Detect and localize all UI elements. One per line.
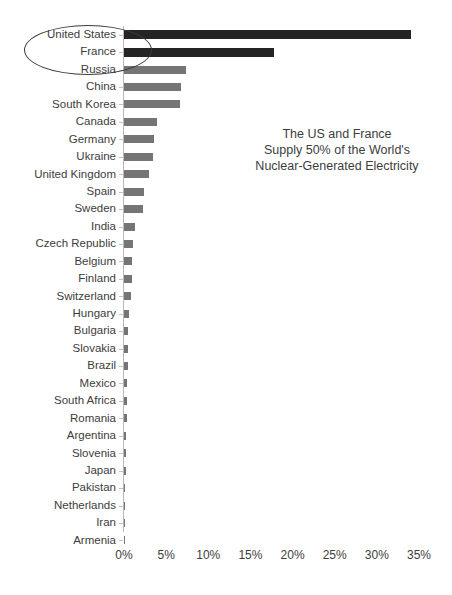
axis-tick-mark <box>119 209 123 210</box>
axis-tick-mark <box>119 244 123 245</box>
bar-row: Czech Republic <box>0 235 452 252</box>
bar-container <box>124 497 125 514</box>
bar-row: Argentina <box>0 427 452 444</box>
bar-container <box>124 200 143 217</box>
bar-row: South Africa <box>0 392 452 409</box>
bar-container <box>124 288 131 305</box>
axis-tick-mark <box>119 471 123 472</box>
bar-category-label: China <box>0 78 116 95</box>
x-axis-tick-label: 30% <box>365 548 389 562</box>
bar-container <box>124 375 127 392</box>
bar <box>124 432 126 440</box>
axis-tick-mark <box>119 366 123 367</box>
bar-row: Belgium <box>0 253 452 270</box>
bar <box>124 379 127 387</box>
bar-container <box>124 235 133 252</box>
bar <box>124 100 180 108</box>
x-axis-tick-label: 25% <box>323 548 347 562</box>
bar-category-label: Belgium <box>0 253 116 270</box>
bar-row: Switzerland <box>0 288 452 305</box>
bar-container <box>124 26 411 43</box>
bar-container <box>124 532 125 549</box>
bar <box>124 362 128 370</box>
bar-container <box>124 479 125 496</box>
axis-tick-mark <box>119 35 123 36</box>
bar-highlighted <box>124 48 274 57</box>
bar-container <box>124 113 157 130</box>
bar-row: Sweden <box>0 200 452 217</box>
bar-row: Mexico <box>0 375 452 392</box>
bar-container <box>124 427 126 444</box>
bar <box>124 536 125 544</box>
bar <box>124 188 144 196</box>
bar-category-label: Brazil <box>0 357 116 374</box>
axis-tick-mark <box>119 523 123 524</box>
bar <box>124 310 129 318</box>
bar <box>124 414 127 422</box>
bar-category-label: Sweden <box>0 200 116 217</box>
bar <box>124 240 133 248</box>
bar <box>124 257 132 265</box>
bar-category-label: Mexico <box>0 375 116 392</box>
bar-category-label: Czech Republic <box>0 235 116 252</box>
bar-container <box>124 253 132 270</box>
bar-rows: United StatesFranceRussiaChinaSouth Kore… <box>0 26 452 549</box>
x-axis-tick-label: 20% <box>281 548 305 562</box>
bar-row: Slovenia <box>0 445 452 462</box>
bar-row: South Korea <box>0 96 452 113</box>
bar-row: France <box>0 43 452 60</box>
bar-row: Brazil <box>0 357 452 374</box>
bar <box>124 205 143 213</box>
bar-row: Netherlands <box>0 497 452 514</box>
x-axis-tick-label: 15% <box>238 548 262 562</box>
axis-tick-mark <box>119 70 123 71</box>
axis-tick-mark <box>119 227 123 228</box>
bar-category-label: Slovakia <box>0 340 116 357</box>
axis-tick-mark <box>119 122 123 123</box>
bar-container <box>124 392 127 409</box>
axis-tick-mark <box>119 139 123 140</box>
bar-row: Pakistan <box>0 479 452 496</box>
axis-tick-mark <box>119 506 123 507</box>
axis-tick-mark <box>119 261 123 262</box>
bar <box>124 449 126 457</box>
bar-container <box>124 445 126 462</box>
bar-container <box>124 514 125 531</box>
bar-container <box>124 322 128 339</box>
bar <box>124 223 135 231</box>
bar-category-label: Japan <box>0 462 116 479</box>
bar <box>124 275 132 283</box>
nuclear-electricity-share-bar-chart: United StatesFranceRussiaChinaSouth Kore… <box>0 0 452 595</box>
bar-row: United States <box>0 26 452 43</box>
axis-tick-mark <box>119 488 123 489</box>
axis-tick-mark <box>119 436 123 437</box>
axis-tick-mark <box>119 296 123 297</box>
bar-highlighted <box>124 30 411 39</box>
bar-row: Slovakia <box>0 340 452 357</box>
bar-container <box>124 305 129 322</box>
bar <box>124 519 125 527</box>
bar-container <box>124 43 274 60</box>
bar-category-label: Armenia <box>0 532 116 549</box>
bar-category-label: United Kingdom <box>0 166 116 183</box>
x-axis-tick-label: 0% <box>115 548 132 562</box>
x-axis-tick-labels: 0%5%10%15%20%25%30%35% <box>0 548 452 568</box>
bar-category-label: Hungary <box>0 305 116 322</box>
axis-tick-mark <box>119 87 123 88</box>
bar <box>124 502 125 510</box>
bar-container <box>124 78 181 95</box>
bar <box>124 170 149 178</box>
bar-container <box>124 96 180 113</box>
bar-category-label: Romania <box>0 410 116 427</box>
bar-row: Bulgaria <box>0 322 452 339</box>
axis-tick-mark <box>119 349 123 350</box>
bar <box>124 327 128 335</box>
axis-tick-mark <box>119 174 123 175</box>
bar <box>124 153 153 161</box>
bar-container <box>124 340 128 357</box>
callout-text-line-2: Supply 50% of the World's <box>237 142 437 158</box>
bar-row: Hungary <box>0 305 452 322</box>
bar-category-label: Finland <box>0 270 116 287</box>
axis-tick-mark <box>119 418 123 419</box>
bar <box>124 292 131 300</box>
